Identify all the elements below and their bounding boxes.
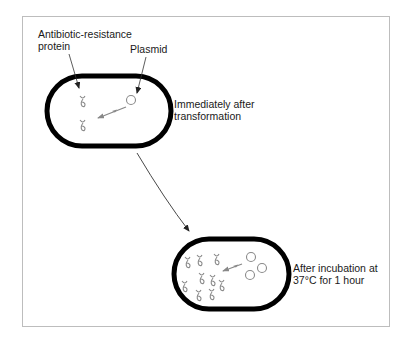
stage-2-caption: After incubation at 37°C for 1 hour <box>293 263 378 286</box>
stage-2-caption-line-1: After incubation at <box>293 263 378 275</box>
plasmid-icon <box>127 96 136 105</box>
plasmid-icon <box>258 264 267 273</box>
plasmid-icon <box>247 253 256 262</box>
protein-icon <box>182 281 187 292</box>
cell-stage-2 <box>174 239 289 309</box>
protein-label: Antibiotic-resistance protein <box>38 29 132 52</box>
expression-arrow-icon <box>98 107 126 118</box>
plasmid-icon <box>246 271 255 280</box>
expression-arrow-icon <box>223 264 242 271</box>
protein-icon <box>80 96 85 107</box>
protein-label-line-1: Antibiotic-resistance <box>38 29 132 41</box>
protein-icon <box>219 280 224 291</box>
protein-icon <box>214 254 219 265</box>
stage-2-caption-line-2: 37°C for 1 hour <box>293 275 378 287</box>
plasmid-label: Plasmid <box>130 44 167 56</box>
protein-leader-line <box>69 54 79 88</box>
protein-icon <box>199 273 204 284</box>
stage-1-caption-line-2: transformation <box>174 111 255 123</box>
transition-arrow-icon <box>137 153 189 231</box>
stage-1-caption-line-1: Immediately after <box>174 99 255 111</box>
protein-icon <box>210 275 215 286</box>
protein-label-line-2: protein <box>38 41 132 53</box>
protein-icon <box>197 255 202 266</box>
protein-icon <box>196 290 201 301</box>
stage-1-caption: Immediately after transformation <box>174 99 255 122</box>
cell-stage-1 <box>47 76 171 146</box>
protein-icon <box>80 120 85 131</box>
protein-icon <box>185 257 190 268</box>
protein-icon <box>209 289 214 300</box>
